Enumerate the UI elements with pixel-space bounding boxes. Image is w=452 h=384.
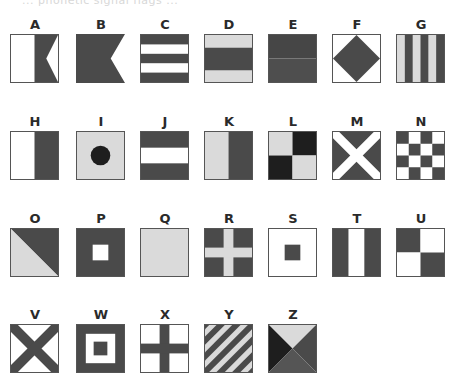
flag-z-icon	[268, 324, 317, 373]
flag-label: V	[10, 308, 60, 322]
flag-cell-w: W	[76, 308, 126, 374]
flag-v-icon	[10, 324, 59, 373]
flag-x-icon	[140, 324, 189, 373]
flag-p-icon	[76, 228, 125, 277]
flag-label: C	[140, 18, 190, 32]
flag-label: R	[204, 212, 254, 226]
flag-cell-r: R	[204, 212, 254, 278]
flag-label: K	[204, 115, 254, 129]
flag-u-icon	[396, 228, 445, 277]
flag-cell-h: H	[10, 115, 60, 181]
flag-label: J	[140, 115, 190, 129]
flag-t-icon	[332, 228, 381, 277]
cutoff-header-text: ... phonetic signal flags ...	[22, 0, 178, 7]
flag-cell-z: Z	[268, 308, 318, 374]
flag-cell-k: K	[204, 115, 254, 181]
flag-cell-d: D	[204, 18, 254, 84]
flag-cell-x: X	[140, 308, 190, 374]
flag-label: Q	[140, 212, 190, 226]
flag-cell-e: E	[268, 18, 318, 84]
flag-cell-t: T	[332, 212, 382, 278]
flag-label: B	[76, 18, 126, 32]
flag-label: P	[76, 212, 126, 226]
flag-q-icon	[140, 228, 189, 277]
flag-b-icon	[76, 34, 125, 83]
flag-label: Z	[268, 308, 318, 322]
flag-g-icon	[396, 34, 445, 83]
flag-cell-y: Y	[204, 308, 254, 374]
flag-cell-p: P	[76, 212, 126, 278]
flag-c-icon	[140, 34, 189, 83]
flag-label: M	[332, 115, 382, 129]
flag-cell-u: U	[396, 212, 446, 278]
flag-k-icon	[204, 131, 253, 180]
flag-cell-c: C	[140, 18, 190, 84]
flag-label: I	[76, 115, 126, 129]
flag-label: Y	[204, 308, 254, 322]
flag-a-icon	[10, 34, 59, 83]
flag-label: D	[204, 18, 254, 32]
flag-label: F	[332, 18, 382, 32]
flag-m-icon	[332, 131, 381, 180]
flag-r-icon	[204, 228, 253, 277]
flag-cell-s: S	[268, 212, 318, 278]
flag-label: N	[396, 115, 446, 129]
flag-cell-a: A	[10, 18, 60, 84]
flag-e-icon	[268, 34, 317, 83]
flag-label: S	[268, 212, 318, 226]
flag-label: H	[10, 115, 60, 129]
flag-l-icon	[268, 131, 317, 180]
flag-label: O	[10, 212, 60, 226]
flag-d-icon	[204, 34, 253, 83]
flag-cell-m: M	[332, 115, 382, 181]
flag-cell-o: O	[10, 212, 60, 278]
flag-cell-q: Q	[140, 212, 190, 278]
flag-cell-b: B	[76, 18, 126, 84]
flag-label: X	[140, 308, 190, 322]
flag-h-icon	[10, 131, 59, 180]
flag-i-icon	[76, 131, 125, 180]
flag-label: T	[332, 212, 382, 226]
flag-cell-i: I	[76, 115, 126, 181]
flag-label: E	[268, 18, 318, 32]
flag-n-icon	[396, 131, 445, 180]
flag-o-icon	[10, 228, 59, 277]
flag-cell-f: F	[332, 18, 382, 84]
flag-cell-v: V	[10, 308, 60, 374]
flag-label: U	[396, 212, 446, 226]
flag-f-icon	[332, 34, 381, 83]
flag-cell-g: G	[396, 18, 446, 84]
flag-cell-l: L	[268, 115, 318, 181]
flag-label: A	[10, 18, 60, 32]
flag-w-icon	[76, 324, 125, 373]
flag-y-icon	[204, 324, 253, 373]
flag-label: W	[76, 308, 126, 322]
flag-label: G	[396, 18, 446, 32]
flag-cell-n: N	[396, 115, 446, 181]
flag-s-icon	[268, 228, 317, 277]
flag-cell-j: J	[140, 115, 190, 181]
flag-j-icon	[140, 131, 189, 180]
flag-label: L	[268, 115, 318, 129]
